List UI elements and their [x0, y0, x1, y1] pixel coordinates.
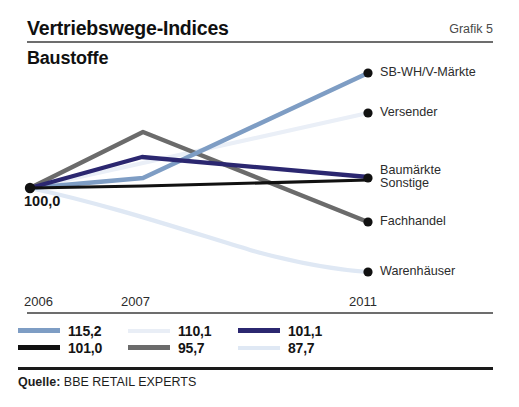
- legend-value-sb-wh-v-maerkte: 115,2: [68, 323, 101, 339]
- legend-item-95-7: 95,7: [128, 340, 238, 356]
- legend-swatch-warenhaeuser: [238, 346, 280, 350]
- xtick-2007: 2007: [121, 294, 150, 309]
- source-name: BBE RETAIL EXPERTS: [64, 375, 196, 389]
- legend-value-warenhaeuser: 87,7: [288, 340, 314, 356]
- footer-divider: [18, 367, 493, 370]
- series-label-fachhandel: Fachhandel: [380, 215, 446, 228]
- legend-value-sonstige: 101,0: [68, 340, 102, 356]
- legend-swatch-sb-wh-v-maerkte: [18, 328, 60, 333]
- x-axis-divider: [27, 312, 493, 314]
- chart-legend: 115,2 110,1 101,1 101,0 95,7 87,7: [18, 322, 348, 356]
- legend-swatch-baumaerkte: [238, 328, 280, 333]
- legend-value-fachhandel: 95,7: [178, 340, 204, 356]
- series-label-versender: Versender: [380, 106, 437, 119]
- legend-item-115-2: 115,2: [18, 323, 128, 339]
- chart-page: Vertriebswege-Indices Grafik 5 Baustoffe: [0, 0, 519, 407]
- datapoint-baumaerkte-sonstige: [363, 173, 372, 182]
- legend-swatch-sonstige: [18, 345, 60, 350]
- datapoint-fachhandel: [363, 217, 372, 226]
- series-label-baumaerkte: Baumärkte: [380, 164, 441, 177]
- series-label-warenhaeuser: Warenhäuser: [380, 265, 455, 278]
- baseline-value-label: 100,0: [24, 193, 60, 209]
- legend-value-versender: 110,1: [178, 323, 211, 339]
- source-prefix: Quelle:: [18, 375, 60, 389]
- legend-item-110-1: 110,1: [128, 323, 238, 339]
- source-note: Quelle: BBE RETAIL EXPERTS: [18, 375, 196, 389]
- datapoint-sb-wh-v-maerkte: [363, 68, 372, 77]
- legend-item-101-0: 101,0: [18, 340, 128, 356]
- xtick-2006: 2006: [24, 294, 53, 309]
- legend-value-baumaerkte: 101,1: [288, 323, 322, 339]
- legend-swatch-versender: [128, 329, 170, 333]
- legend-item-87-7: 87,7: [238, 340, 348, 356]
- datapoint-origin: [25, 183, 35, 193]
- legend-row: 115,2 110,1 101,1: [18, 322, 348, 339]
- datapoint-warenhaeuser: [363, 267, 372, 276]
- series-label-sonstige: Sonstige: [380, 177, 429, 190]
- legend-swatch-fachhandel: [128, 345, 170, 350]
- legend-item-101-1: 101,1: [238, 323, 348, 339]
- xtick-2011: 2011: [349, 294, 377, 309]
- series-label-sb-wh-v-maerkte: SB-WH/V-Märkte: [380, 66, 476, 79]
- datapoint-versender: [363, 108, 372, 117]
- legend-row: 101,0 95,7 87,7: [18, 339, 348, 356]
